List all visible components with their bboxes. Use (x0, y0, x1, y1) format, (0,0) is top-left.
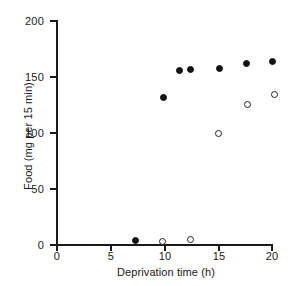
plot-area: 0 50 100 150 200 0 5 10 15 20 Deprivatio… (0, 0, 292, 286)
y-tick-200 (50, 20, 56, 22)
x-tick-label-15: 15 (207, 250, 231, 262)
y-axis-line (56, 20, 58, 246)
data-point (271, 91, 278, 98)
x-tick-label-5: 5 (99, 250, 123, 262)
x-tick-label-20: 20 (260, 250, 284, 262)
x-tick-label-10: 10 (153, 250, 177, 262)
data-point (187, 66, 194, 73)
data-point (216, 65, 223, 72)
data-point (244, 101, 251, 108)
data-point (243, 60, 250, 67)
data-point (187, 236, 194, 243)
y-tick-50 (50, 188, 56, 190)
data-point (132, 237, 139, 244)
y-tick-label-0: 0 (0, 240, 44, 251)
y-tick-label-200: 200 (0, 16, 44, 27)
data-point (159, 238, 166, 245)
data-point (160, 94, 167, 101)
y-axis-title: Food (mg per 15 min) (22, 46, 34, 226)
x-axis-title: Deprivation time (h) (56, 266, 276, 278)
y-tick-100 (50, 132, 56, 134)
y-tick-150 (50, 76, 56, 78)
data-point (176, 67, 183, 74)
scatter-plot-figure: 0 50 100 150 200 0 5 10 15 20 Deprivatio… (0, 0, 292, 286)
data-point (215, 130, 222, 137)
x-tick-label-0: 0 (45, 250, 69, 262)
data-point (269, 58, 276, 65)
